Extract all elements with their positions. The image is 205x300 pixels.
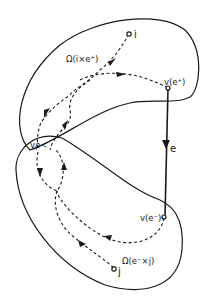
arrowhead-5 (37, 168, 43, 177)
label-v-e-minus: v(e⁻) (140, 213, 161, 223)
label-omega-upper: Ω(i×e⁺) (66, 54, 98, 64)
node-i (127, 32, 131, 36)
edge-e-arrowhead (162, 140, 170, 149)
path-diagram: i Ω(i×e⁺) v(e⁺) e vρ< v(e⁻) Ω(e⁻×j) j (0, 0, 205, 300)
label-omega-lower: Ω(e⁻×j) (122, 256, 154, 266)
arrowhead-4 (62, 120, 68, 130)
label-vp: vρ< (30, 140, 48, 150)
edge-e (165, 88, 168, 217)
label-e: e (170, 143, 176, 154)
label-i: i (134, 29, 137, 40)
arrowhead-2 (44, 108, 50, 118)
label-j: j (117, 266, 121, 277)
node-j (112, 267, 116, 271)
arrowhead-7 (104, 235, 112, 241)
arrowhead-8 (78, 240, 86, 247)
path-to-j (55, 191, 114, 268)
path-inner-loop (50, 80, 90, 150)
path-to-ve-plus (80, 73, 168, 88)
path-i-upper (37, 34, 129, 150)
arrowhead-3 (116, 72, 126, 77)
node-v-e-minus (162, 215, 166, 219)
label-v-e-plus: v(e⁺) (164, 77, 185, 87)
arrowhead-6 (61, 162, 67, 170)
